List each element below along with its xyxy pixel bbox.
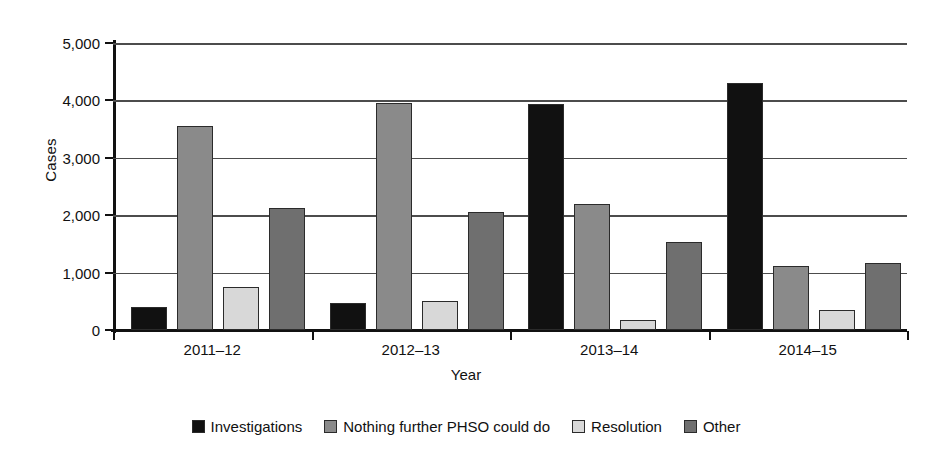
y-axis-tick-label: 4,000 — [32, 92, 100, 109]
y-axis-tick-mark — [105, 99, 113, 101]
legend-item[interactable]: Nothing further PHSO could do — [324, 418, 550, 435]
x-axis-tick-mark — [312, 331, 314, 340]
y-axis-tick-mark — [105, 157, 113, 159]
bar — [773, 266, 809, 330]
bar — [574, 204, 610, 330]
bar — [223, 287, 259, 330]
bar — [468, 212, 504, 330]
bar — [269, 208, 305, 330]
legend-item-label: Resolution — [591, 418, 662, 435]
bar — [177, 126, 213, 330]
x-axis-title: Year — [0, 366, 932, 383]
legend-swatch-icon — [324, 420, 337, 433]
bars-group — [113, 43, 907, 330]
bar — [330, 303, 366, 330]
y-axis-tick-label-wrap: 3,000 — [25, 158, 100, 159]
bar — [131, 307, 167, 330]
legend-item[interactable]: Investigations — [192, 418, 303, 435]
bar-chart: Cases 01,0002,0003,0004,0005,000 2011–12… — [0, 0, 932, 465]
y-axis-tick-label: 5,000 — [32, 35, 100, 52]
legend-swatch-icon — [192, 420, 205, 433]
chart-legend: InvestigationsNothing further PHSO could… — [0, 418, 932, 435]
y-axis-tick-mark — [105, 42, 113, 44]
legend-swatch-icon — [684, 420, 697, 433]
x-axis-tick-mark — [113, 331, 115, 340]
y-axis-tick-label: 2,000 — [32, 207, 100, 224]
legend-item-label: Investigations — [211, 418, 303, 435]
legend-item-label: Nothing further PHSO could do — [343, 418, 550, 435]
legend-item[interactable]: Resolution — [572, 418, 662, 435]
bar — [422, 301, 458, 330]
y-axis-tick-label: 0 — [32, 322, 100, 339]
bar — [376, 103, 412, 330]
x-axis-category-label: 2011–12 — [113, 341, 312, 358]
y-axis-tick-label-wrap: 0 — [25, 330, 100, 331]
legend-item-label: Other — [703, 418, 741, 435]
y-axis-tick-mark — [105, 214, 113, 216]
x-axis-tick-mark — [709, 331, 711, 340]
x-axis-category-label: 2012–13 — [312, 341, 511, 358]
y-axis-tick-label-wrap: 5,000 — [25, 43, 100, 44]
bar — [727, 83, 763, 330]
y-axis-tick-label-wrap: 4,000 — [25, 100, 100, 101]
bar — [819, 310, 855, 330]
x-axis-tick-mark — [510, 331, 512, 340]
x-axis-category-label: 2014–15 — [709, 341, 908, 358]
y-axis-tick-mark — [105, 329, 113, 331]
legend-item[interactable]: Other — [684, 418, 741, 435]
y-axis-tick-mark — [105, 272, 113, 274]
legend-swatch-icon — [572, 420, 585, 433]
y-axis-tick-label: 3,000 — [32, 149, 100, 166]
y-axis-tick-label-wrap: 1,000 — [25, 273, 100, 274]
x-axis-tick-mark — [907, 331, 909, 340]
y-axis-tick-label: 1,000 — [32, 264, 100, 281]
bar — [865, 263, 901, 330]
bar — [620, 320, 656, 330]
bar — [528, 104, 564, 330]
bar — [666, 242, 702, 330]
x-axis-category-label: 2013–14 — [510, 341, 709, 358]
y-axis-tick-label-wrap: 2,000 — [25, 215, 100, 216]
